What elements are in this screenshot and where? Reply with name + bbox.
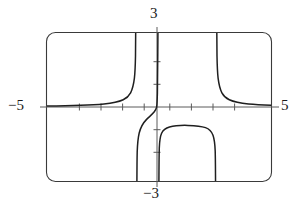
y-max-label: 3 (150, 6, 158, 21)
x-min-label: −5 (8, 98, 24, 113)
graphing-calculator-screen: 3 −3 −5 5 (0, 0, 301, 212)
x-max-label: 5 (281, 98, 289, 113)
graph-plot (0, 0, 301, 212)
y-min-label: −3 (143, 186, 159, 201)
